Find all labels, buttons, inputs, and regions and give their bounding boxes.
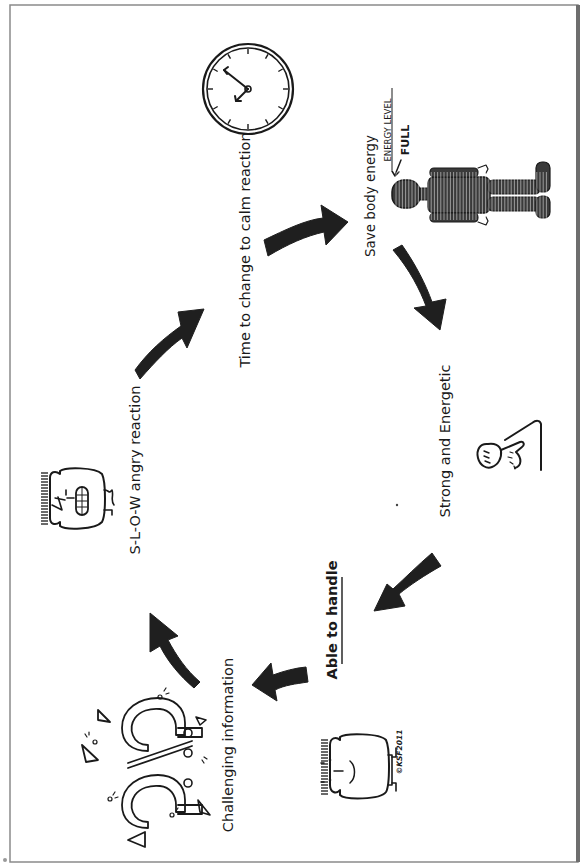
stage-label-slow-angry: S-L-O-W angry reaction — [127, 386, 143, 555]
speck — [3, 858, 7, 862]
stage-label-challenging: Challenging information — [220, 658, 236, 832]
stage-label-strong: Strong and Energetic — [437, 364, 453, 517]
speck — [396, 504, 398, 506]
stage-label-able: Able to handle — [324, 560, 340, 679]
energy-level-value: FULL — [399, 125, 412, 155]
signature: ©KSF2011 — [395, 730, 404, 775]
page-frame — [10, 5, 578, 862]
stage-label-time-change: Time to change to calm reaction — [237, 132, 253, 368]
cycle-diagram: Time to change to calm reaction Save bod… — [0, 0, 587, 868]
stage-label-save-energy: Save body energy — [362, 135, 378, 257]
